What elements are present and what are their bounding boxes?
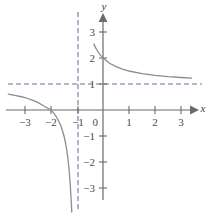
y-tick-label-pos2: 2	[90, 52, 96, 64]
x-axis-label: x	[200, 102, 206, 114]
x-tick-label-pos1: 1	[126, 116, 132, 128]
x-tick-label-neg3: −3	[19, 116, 31, 128]
x-tick-label-pos3: 3	[178, 116, 184, 128]
x-tick-label-neg1: −1	[72, 116, 84, 128]
curve-right-branch	[94, 44, 191, 78]
y-tick-label-neg1: −1	[83, 130, 95, 142]
curve-left-branch	[8, 94, 72, 212]
y-tick-label-pos1: 1	[90, 78, 96, 90]
function-graph-figure: −3 −2 −1 1 2 3 3 2 1 −1 −2 −3 0 x y	[0, 0, 210, 216]
y-axis-arrowhead	[99, 13, 108, 22]
x-tick-label-pos2: 2	[152, 116, 158, 128]
x-axis-arrowhead	[190, 106, 199, 115]
origin-label: 0	[93, 116, 99, 128]
plot-canvas: −3 −2 −1 1 2 3 3 2 1 −1 −2 −3 0 x y	[0, 0, 210, 216]
y-tick-label-pos3: 3	[90, 26, 96, 38]
x-tick-label-neg2: −2	[45, 116, 57, 128]
y-axis-label: y	[101, 0, 107, 12]
y-tick-label-neg2: −2	[83, 156, 95, 168]
y-tick-label-neg3: −3	[83, 182, 95, 194]
